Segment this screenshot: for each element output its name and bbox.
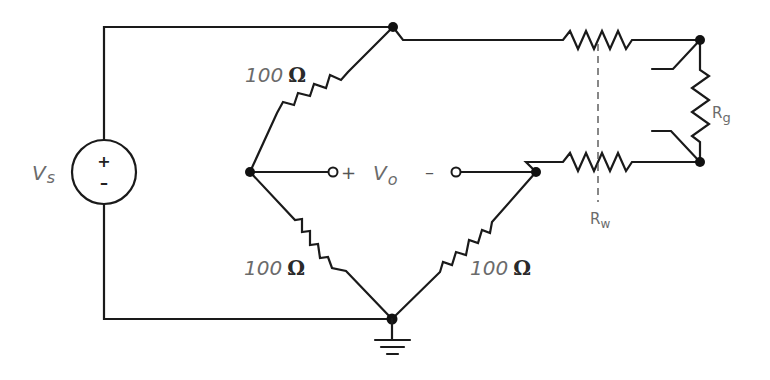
node-gauge-bottom (695, 157, 705, 167)
lead-wire-top (393, 27, 700, 49)
source-minus-sign: – (100, 173, 108, 192)
source-plus-sign: + (97, 152, 110, 171)
node-gauge-top (695, 35, 705, 45)
wire-resistance-label: Rw (590, 210, 610, 231)
resistor-gauge (692, 40, 709, 162)
resistor-top-left (250, 27, 393, 172)
resistor-bottom-right (392, 172, 536, 319)
node-top (388, 22, 398, 32)
source-label: Vs (32, 161, 55, 187)
output-terminal-minus[interactable] (452, 168, 461, 177)
node-right (531, 167, 541, 177)
node-left (245, 167, 255, 177)
output-minus-sign: – (425, 161, 434, 182)
resistor-bottom-left (250, 172, 392, 319)
output-plus-sign: + (341, 162, 356, 183)
lead-wire-bottom (526, 153, 700, 172)
resistor-top-left-label: 100Ω (245, 63, 306, 87)
gauge-leads (652, 40, 700, 162)
output-terminal-plus[interactable] (329, 168, 338, 177)
output-voltage-label: Vo (373, 161, 398, 189)
bridge-circuit-diagram: + – Vs 100Ω 100Ω 100Ω + Vo – Rw Rg (0, 0, 770, 380)
gauge-resistance-label: Rg (712, 104, 731, 125)
resistor-bottom-left-label: 100Ω (244, 256, 305, 280)
voltage-source: + – (72, 140, 136, 204)
ground-icon (375, 319, 410, 354)
resistor-bottom-right-label: 100Ω (470, 256, 531, 280)
